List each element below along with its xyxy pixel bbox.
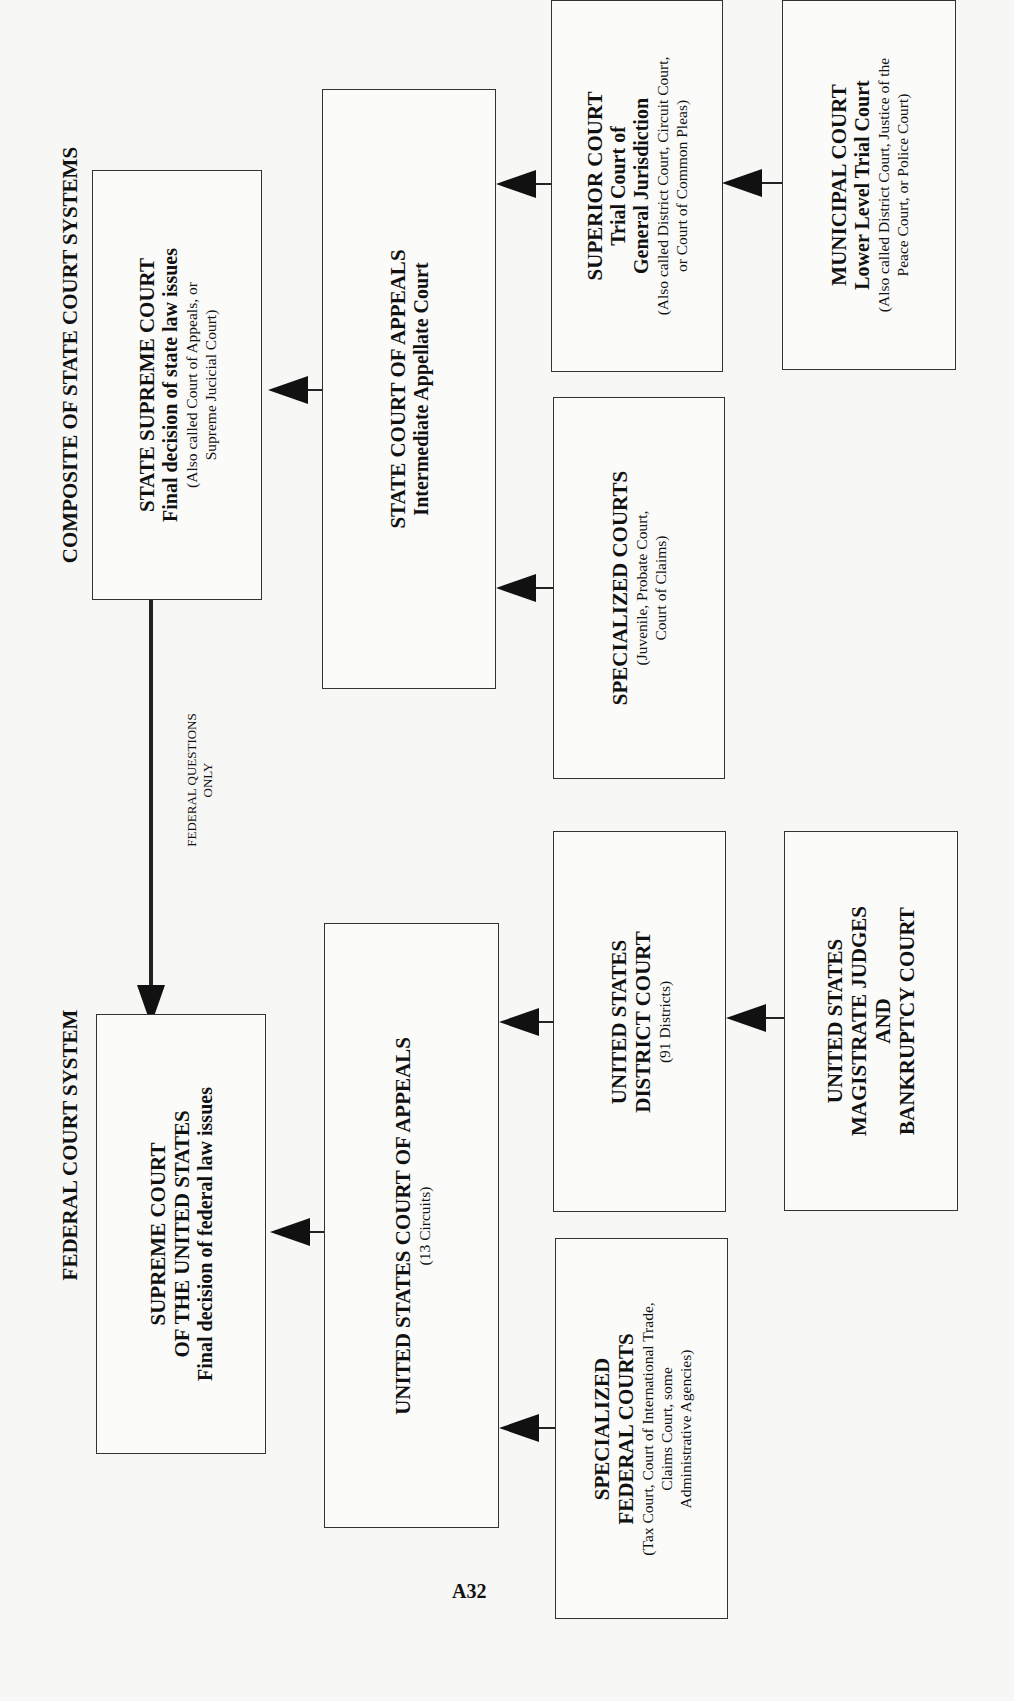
state-supreme-court-box: STATE SUPREME COURT Final decision of st… [92,170,262,600]
page-number: A32 [452,1580,486,1603]
us-supreme-subtitle: Final decision of federal law issues [194,1087,217,1381]
us-supreme-title: SUPREME COURT [146,1087,170,1381]
state-supreme-subtitle: Final decision of state law issues [159,248,182,522]
arrow-left-icon [270,1218,310,1246]
magistrate-bankruptcy-box: UNITED STATES MAGISTRATE JUDGES AND BANK… [784,831,958,1211]
arrow-left-icon [499,1008,539,1036]
state-appeals-subtitle: Intermediate Appellate Court [410,249,433,528]
us-supreme-title: OF THE UNITED STATES [170,1087,194,1381]
state-supreme-title: STATE SUPREME COURT [135,248,159,522]
municipal-court-box: MUNICIPAL COURT Lower Level Trial Court … [782,0,956,370]
federal-questions-connector [149,600,153,1000]
fed-specialized-title: FEDERAL COURTS [613,1302,637,1555]
municipal-title: MUNICIPAL COURT [827,58,851,312]
state-court-of-appeals-box: STATE COURT OF APPEALS Intermediate Appe… [322,89,496,689]
arrow-left-icon [499,1414,539,1442]
state-specialized-note: (Juvenile, Probate Court, [632,471,651,705]
superior-subtitle: Trial Court of [607,57,630,316]
municipal-note: Peace Court, or Police Court) [893,58,912,312]
fed-specialized-title: SPECIALIZED [589,1302,613,1555]
federal-questions-label: FEDERAL QUESTIONS ONLY [184,713,216,847]
fed-specialized-note: (Tax Court, Court of International Trade… [637,1302,656,1555]
arrow-left-icon [496,574,536,602]
connector-label-line: ONLY [200,763,215,798]
municipal-note: (Also called District Court, Justice of … [874,58,893,312]
superior-court-box: SUPERIOR COURT Trial Court of General Ju… [551,0,723,372]
us-district-note: (91 Districts) [654,931,673,1113]
us-district-title: UNITED STATES [606,931,630,1113]
us-court-of-appeals-box: UNITED STATES COURT OF APPEALS (13 Circu… [324,923,499,1528]
state-supreme-note: (Also called Court of Appeals, or [182,248,201,522]
state-specialized-note: Court of Claims) [651,471,670,705]
fed-specialized-note: Administrative Agencies) [675,1302,694,1555]
arrow-left-icon [496,170,536,198]
federal-system-heading: FEDERAL COURT SYSTEM [58,1010,83,1281]
arrow-left-icon [726,1004,766,1032]
us-supreme-court-box: SUPREME COURT OF THE UNITED STATES Final… [96,1014,266,1454]
municipal-subtitle: Lower Level Trial Court [851,58,874,312]
magistrate-title: BANKRUPTCY COURT [895,906,919,1136]
superior-note: or Court of Common Pleas) [672,57,691,316]
us-district-court-box: UNITED STATES DISTRICT COURT (91 Distric… [553,831,726,1212]
state-appeals-title: STATE COURT OF APPEALS [386,249,410,528]
state-specialized-courts-box: SPECIALIZED COURTS (Juvenile, Probate Co… [553,397,725,779]
state-supreme-note: Supreme Jucicial Court) [201,248,220,522]
us-appeals-note: (13 Circuits) [414,1037,433,1415]
superior-title: SUPERIOR COURT [583,57,607,316]
magistrate-title: MAGISTRATE JUDGES [847,906,871,1136]
superior-note: (Also called District Court, Circuit Cou… [653,57,672,316]
superior-subtitle: General Jurisdiction [630,57,653,316]
us-district-title: DISTRICT COURT [630,931,654,1113]
arrow-left-icon [268,376,308,404]
specialized-federal-courts-box: SPECIALIZED FEDERAL COURTS (Tax Court, C… [555,1238,728,1619]
fed-specialized-note: Claims Court, some [656,1302,675,1555]
arrow-left-icon [722,169,762,197]
magistrate-title: AND [871,906,895,1136]
magistrate-title: UNITED STATES [823,906,847,1136]
state-specialized-title: SPECIALIZED COURTS [608,471,632,705]
us-appeals-title: UNITED STATES COURT OF APPEALS [390,1037,414,1415]
connector-label-line: FEDERAL QUESTIONS [184,713,199,847]
state-system-heading: COMPOSITE OF STATE COURT SYSTEMS [58,147,83,563]
